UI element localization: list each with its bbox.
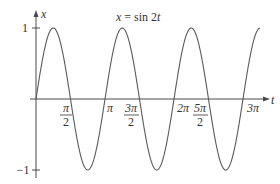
tick-3pi-half: 3π 2: [124, 101, 139, 129]
x-axis-arrow-icon: [263, 97, 270, 102]
y-axis-arrow-icon: [34, 10, 39, 17]
y-tick-label-neg1: −1: [17, 163, 30, 177]
x-axis-label: t: [271, 93, 275, 107]
svg-text:2: 2: [128, 115, 134, 129]
y-tick-label-1: 1: [22, 21, 28, 35]
svg-text:3π: 3π: [124, 101, 138, 115]
tick-pi: π: [107, 101, 114, 115]
title-var: t: [157, 10, 161, 24]
tick-pi-half: π 2: [60, 101, 72, 129]
title-rhs: = sin 2: [121, 10, 157, 24]
chart-title: x = sin 2t: [115, 10, 161, 24]
svg-text:2: 2: [63, 115, 69, 129]
svg-text:π: π: [63, 101, 70, 115]
svg-text:5π: 5π: [194, 101, 207, 115]
tick-5pi-half: 5π 2: [193, 101, 208, 129]
svg-text:2: 2: [197, 115, 203, 129]
tick-2pi: 2π: [177, 101, 190, 115]
tick-3pi: 3π: [246, 101, 260, 115]
chart: x t x = sin 2t 1 −1 π 2 π 3π 2 2π 5π 2 3…: [0, 0, 280, 184]
sine-plot: x t x = sin 2t 1 −1 π 2 π 3π 2 2π 5π 2 3…: [0, 0, 280, 184]
y-axis-label: x: [40, 7, 47, 21]
